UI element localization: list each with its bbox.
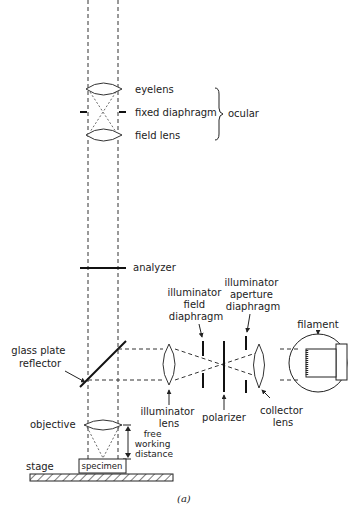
illuminator-lens-label: illuminator lens xyxy=(141,406,198,429)
free-working-distance-arrow xyxy=(123,425,131,459)
figure-caption: (a) xyxy=(177,493,191,504)
field-lens-label: field lens xyxy=(135,130,180,141)
field-lens-icon xyxy=(86,129,122,141)
aperture-diaphragm-pointer-arrow xyxy=(247,314,250,332)
reflector-pointer-arrow xyxy=(65,371,85,382)
illuminator-field-diaphragm-label: illuminator field diaphragm xyxy=(168,287,225,322)
objective-lens-icon xyxy=(84,420,122,430)
free-working-distance-label: free working distance xyxy=(135,429,174,459)
collector-lens-icon xyxy=(254,344,265,388)
stage-hatched-platform xyxy=(30,474,173,481)
fixed-diaphragm-label: fixed diaphragm xyxy=(135,107,217,118)
objective-label: objective xyxy=(30,419,76,430)
illuminator-aperture-diaphragm-label: illuminator aperture diaphragm xyxy=(225,277,282,312)
vertical-optical-path xyxy=(88,0,118,470)
filament-label: filament xyxy=(297,319,338,330)
polarizer-label: polarizer xyxy=(202,412,247,423)
ocular-crossing-rays xyxy=(90,92,116,132)
illuminator-lens-icon xyxy=(163,344,175,385)
horizontal-illumination-path xyxy=(88,349,300,380)
eyelens-icon xyxy=(86,83,122,95)
collector-lens-label: collector lens xyxy=(260,405,306,428)
field-diaphragm-pointer-arrow xyxy=(199,324,202,337)
specimen-label: specimen xyxy=(82,461,123,471)
collector-lens-pointer-arrow xyxy=(262,390,270,398)
analyzer-label: analyzer xyxy=(133,262,177,273)
objective-focus-cone xyxy=(87,427,119,458)
stage-label: stage xyxy=(26,461,54,472)
ocular-label: ocular xyxy=(228,108,260,119)
eyelens-label: eyelens xyxy=(135,84,174,95)
filament-lamp-icon xyxy=(289,334,347,392)
glass-plate-reflector-label: glass plate reflector xyxy=(11,345,68,369)
reflected-light-polarizing-microscope-diagram: eyelens fixed diaphragm field lens ocula… xyxy=(0,0,356,517)
